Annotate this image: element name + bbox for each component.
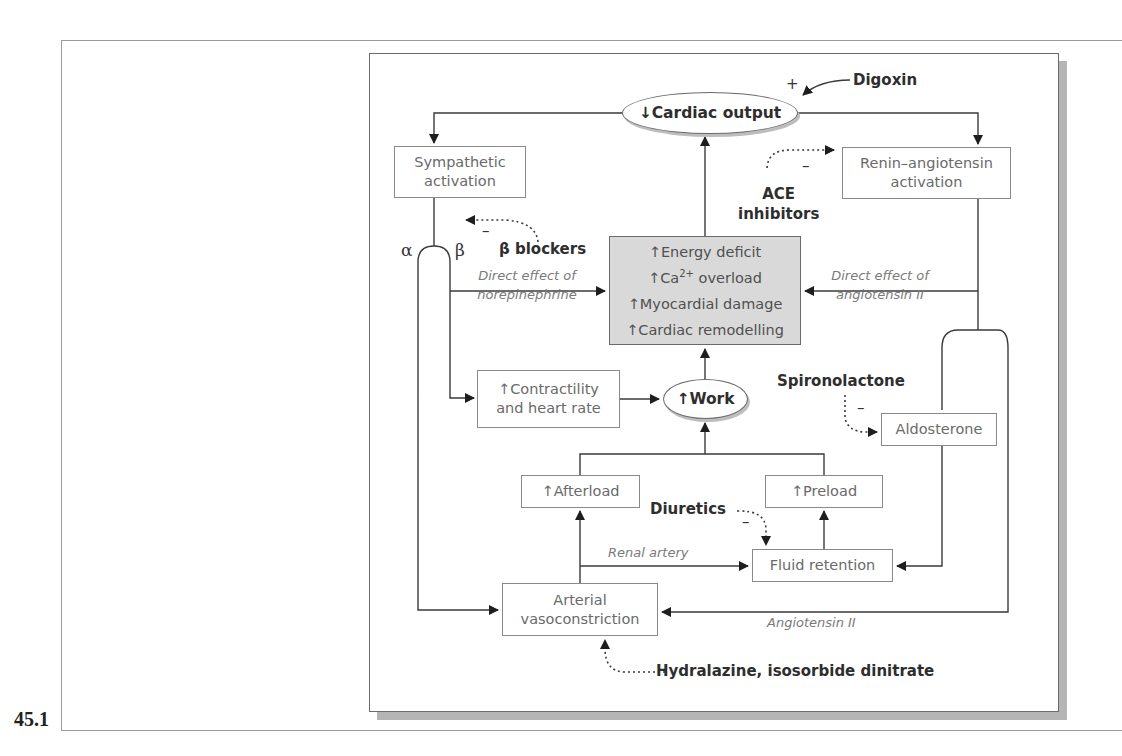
cardiac-output-node: ↓Cardiac output [622, 92, 798, 134]
beta-blocker-minus-sign: – [482, 222, 490, 240]
aldosterone-label: Aldosterone [896, 420, 983, 439]
sympathetic-line-1: Sympathetic [414, 153, 505, 172]
angiotensin-direct-line-2: angiotensin II [810, 285, 950, 304]
preload-node: ↑Preload [765, 475, 883, 508]
renin-angiotensin-node: Renin–angiotensin activation [842, 147, 1011, 199]
contractility-line-2: and heart rate [496, 399, 601, 418]
norepinephrine-line-2: norepinephrine [452, 285, 602, 304]
afterload-node: ↑Afterload [521, 475, 640, 508]
angiotensin-direct-edge-label: Direct effect of angiotensin II [810, 266, 950, 304]
spironolactone-minus-sign: – [857, 399, 865, 417]
calcium-superscript: 2+ [679, 268, 694, 279]
vasoconstriction-line-2: vasoconstriction [521, 610, 640, 629]
plus-sign: + [786, 75, 799, 93]
alpha-label: α [401, 240, 412, 260]
norepinephrine-edge-label: Direct effect of norepinephrine [452, 266, 602, 304]
myocardial-damage-line: ↑Myocardial damage [628, 291, 783, 317]
renal-artery-edge-label: Renal artery [608, 543, 688, 562]
norepinephrine-line-1: Direct effect of [452, 266, 602, 285]
spironolactone-label: Spironolactone [777, 372, 905, 390]
calcium-prefix: ↑Ca [648, 270, 679, 286]
myocardial-effects-node: ↑Energy deficit ↑Ca2+ overload ↑Myocardi… [609, 236, 801, 345]
ace-line-1: ACE [738, 184, 819, 204]
fluid-retention-label: Fluid retention [770, 556, 876, 575]
preload-label: ↑Preload [791, 482, 857, 501]
cardiac-output-label: ↓Cardiac output [639, 104, 782, 122]
work-label: ↑Work [676, 390, 734, 408]
sympathetic-activation-node: Sympathetic activation [394, 146, 526, 198]
contractility-line-1: ↑Contractility [498, 380, 599, 399]
hydralazine-label: Hydralazine, isosorbide dinitrate [656, 662, 934, 680]
renin-line-1: Renin–angiotensin [860, 154, 993, 173]
vasoconstriction-line-1: Arterial [553, 591, 606, 610]
beta-blockers-label: β blockers [499, 240, 586, 258]
energy-deficit-line: ↑Energy deficit [649, 239, 761, 265]
work-node: ↑Work [663, 379, 748, 419]
contractility-node: ↑Contractility and heart rate [477, 370, 620, 428]
ace-inhibitors-label: ACE inhibitors [738, 184, 819, 224]
arterial-vasoconstriction-node: Arterial vasoconstriction [502, 583, 658, 636]
angiotensin-direct-line-1: Direct effect of [810, 266, 950, 285]
ace-line-2: inhibitors [738, 204, 819, 224]
beta-label: β [455, 240, 465, 260]
cardiac-remodelling-line: ↑Cardiac remodelling [626, 317, 784, 343]
ace-minus-sign: – [802, 157, 810, 175]
calcium-overload-line: ↑Ca2+ overload [648, 265, 762, 291]
calcium-suffix: overload [694, 270, 762, 286]
aldosterone-node: Aldosterone [881, 413, 997, 446]
diuretics-label: Diuretics [650, 500, 726, 518]
diuretics-minus-sign: – [742, 513, 750, 531]
digoxin-label: Digoxin [853, 71, 917, 89]
afterload-label: ↑Afterload [542, 482, 620, 501]
fluid-retention-node: Fluid retention [752, 549, 893, 582]
angiotensin-ii-edge-label: Angiotensin II [767, 613, 856, 632]
renin-line-2: activation [891, 173, 963, 192]
sympathetic-line-2: activation [424, 172, 496, 191]
